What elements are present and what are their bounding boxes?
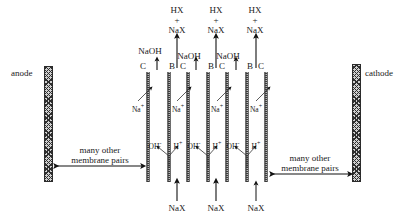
membrane-label-2: B — [169, 61, 175, 71]
membrane-label-6: B — [247, 61, 253, 71]
repeat-note-left-line1: many other — [71, 145, 129, 155]
anion-label-2: OH- — [188, 139, 201, 151]
cation-label-4-ion: Na — [250, 105, 259, 114]
repeat-note-right: many other membrane pairs — [281, 153, 339, 173]
anion-label-3-ion: OH — [227, 142, 238, 151]
cation-label-1-charge: + — [141, 103, 144, 109]
top-output-1-line1: HX — [169, 5, 186, 15]
bottom-feed-1: NaX — [169, 203, 186, 213]
cation-label-1: Na+ — [132, 102, 144, 114]
repeat-note-right-line2: membrane pairs — [281, 163, 339, 173]
membrane-strip-5 — [225, 72, 229, 182]
anion-label-1-charge: - — [159, 140, 161, 146]
repeat-note-left: many other membrane pairs — [71, 145, 129, 165]
proton-label-1: H+ — [174, 139, 183, 151]
top-output-3: HX + NaX — [247, 5, 264, 35]
anion-label-1-ion: OH — [149, 142, 160, 151]
base-output-1: NaOH — [138, 46, 162, 56]
membrane-strip-7 — [264, 72, 268, 182]
top-output-2-plus: + — [208, 15, 225, 25]
anode-label: anode — [11, 68, 33, 78]
repeat-note-left-line2: membrane pairs — [71, 155, 129, 165]
anion-label-2-ion: OH — [188, 142, 199, 151]
anion-label-3: OH- — [227, 139, 240, 151]
membrane-label-4: B — [208, 61, 214, 71]
membrane-label-5: C — [219, 61, 225, 71]
proton-label-3: H+ — [252, 139, 261, 151]
cation-label-2-ion: Na — [172, 105, 181, 114]
membrane-label-7: C — [258, 61, 264, 71]
base-output-2: NaOH — [177, 51, 201, 61]
top-output-3-line1: HX — [247, 5, 264, 15]
cathode-label: cathode — [365, 68, 393, 78]
proton-label-3-charge: + — [257, 140, 260, 146]
membrane-strip-4 — [206, 72, 210, 182]
cation-label-4-charge: + — [259, 103, 262, 109]
top-output-1-plus: + — [169, 15, 186, 25]
cathode-bar — [352, 64, 361, 182]
anode-bar — [44, 66, 53, 182]
top-output-2-line2: NaX — [208, 25, 225, 35]
cation-label-4: Na+ — [250, 102, 262, 114]
repeat-note-right-line1: many other — [281, 153, 339, 163]
proton-label-2: H+ — [213, 139, 222, 151]
top-output-2-line1: HX — [208, 5, 225, 15]
membrane-strip-2 — [167, 72, 171, 182]
membrane-strip-6 — [245, 72, 249, 182]
bottom-feed-2: NaX — [208, 203, 225, 213]
top-output-1-line2: NaX — [169, 25, 186, 35]
cation-label-1-ion: Na — [132, 105, 141, 114]
top-output-1: HX + NaX — [169, 5, 186, 35]
cation-label-3-ion: Na — [211, 105, 220, 114]
bottom-feed-3: NaX — [248, 203, 265, 213]
proton-label-2-charge: + — [218, 140, 221, 146]
top-output-3-line2: NaX — [247, 25, 264, 35]
anion-label-1: OH- — [149, 139, 162, 151]
cation-label-3: Na+ — [211, 102, 223, 114]
anion-label-2-charge: - — [198, 140, 200, 146]
membrane-strip-1 — [146, 72, 150, 182]
membrane-label-3: C — [180, 61, 186, 71]
membrane-strip-3 — [186, 72, 190, 182]
base-output-3: NaOH — [216, 51, 240, 61]
anion-label-3-charge: - — [237, 140, 239, 146]
top-output-2: HX + NaX — [208, 5, 225, 35]
proton-label-1-charge: + — [179, 140, 182, 146]
top-output-3-plus: + — [247, 15, 264, 25]
cation-label-3-charge: + — [220, 103, 223, 109]
membrane-label-1: C — [140, 61, 146, 71]
electrodialysis-diagram: anode cathode C B C B C B C HX + NaX HX … — [0, 0, 419, 220]
cation-label-2: Na+ — [172, 102, 184, 114]
cation-label-2-charge: + — [181, 103, 184, 109]
